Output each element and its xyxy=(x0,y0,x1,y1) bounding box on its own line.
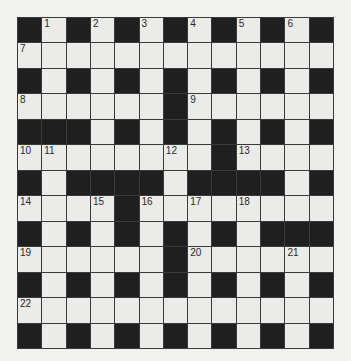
answer-cell[interactable] xyxy=(212,247,235,271)
answer-cell[interactable] xyxy=(115,247,138,271)
answer-cell[interactable] xyxy=(140,324,163,348)
answer-cell[interactable] xyxy=(164,196,187,220)
answer-cell[interactable]: 12 xyxy=(164,145,187,169)
answer-cell[interactable]: 20 xyxy=(188,247,211,271)
answer-cell[interactable] xyxy=(310,43,333,67)
answer-cell[interactable]: 3 xyxy=(140,18,163,42)
answer-cell[interactable] xyxy=(285,324,308,348)
answer-cell[interactable] xyxy=(67,145,90,169)
answer-cell[interactable] xyxy=(285,120,308,144)
answer-cell[interactable] xyxy=(140,69,163,93)
answer-cell[interactable]: 11 xyxy=(42,145,65,169)
answer-cell[interactable]: 4 xyxy=(188,18,211,42)
answer-cell[interactable] xyxy=(140,273,163,297)
answer-cell[interactable] xyxy=(237,298,260,322)
answer-cell[interactable] xyxy=(237,120,260,144)
answer-cell[interactable] xyxy=(237,247,260,271)
answer-cell[interactable]: 14 xyxy=(18,196,41,220)
answer-cell[interactable] xyxy=(164,43,187,67)
answer-cell[interactable] xyxy=(42,196,65,220)
answer-cell[interactable]: 16 xyxy=(140,196,163,220)
answer-cell[interactable] xyxy=(42,298,65,322)
answer-cell[interactable] xyxy=(212,94,235,118)
answer-cell[interactable] xyxy=(91,43,114,67)
answer-cell[interactable] xyxy=(261,298,284,322)
answer-cell[interactable] xyxy=(261,145,284,169)
answer-cell[interactable] xyxy=(310,298,333,322)
answer-cell[interactable] xyxy=(188,222,211,246)
answer-cell[interactable]: 15 xyxy=(91,196,114,220)
answer-cell[interactable] xyxy=(42,69,65,93)
answer-cell[interactable] xyxy=(212,196,235,220)
answer-cell[interactable] xyxy=(285,171,308,195)
answer-cell[interactable] xyxy=(42,171,65,195)
answer-cell[interactable] xyxy=(188,43,211,67)
answer-cell[interactable] xyxy=(67,43,90,67)
answer-cell[interactable]: 7 xyxy=(18,43,41,67)
answer-cell[interactable] xyxy=(285,43,308,67)
answer-cell[interactable] xyxy=(67,94,90,118)
answer-cell[interactable] xyxy=(42,43,65,67)
answer-cell[interactable] xyxy=(67,247,90,271)
answer-cell[interactable] xyxy=(91,324,114,348)
answer-cell[interactable] xyxy=(140,145,163,169)
answer-cell[interactable] xyxy=(115,94,138,118)
answer-cell[interactable] xyxy=(91,94,114,118)
answer-cell[interactable] xyxy=(237,69,260,93)
answer-cell[interactable]: 19 xyxy=(18,247,41,271)
answer-cell[interactable] xyxy=(67,298,90,322)
answer-cell[interactable] xyxy=(310,196,333,220)
answer-cell[interactable] xyxy=(237,324,260,348)
answer-cell[interactable] xyxy=(42,247,65,271)
answer-cell[interactable] xyxy=(237,94,260,118)
answer-cell[interactable] xyxy=(140,94,163,118)
answer-cell[interactable] xyxy=(310,94,333,118)
answer-cell[interactable]: 8 xyxy=(18,94,41,118)
answer-cell[interactable] xyxy=(188,298,211,322)
answer-cell[interactable] xyxy=(285,145,308,169)
answer-cell[interactable] xyxy=(42,273,65,297)
answer-cell[interactable] xyxy=(42,324,65,348)
answer-cell[interactable] xyxy=(91,69,114,93)
answer-cell[interactable] xyxy=(188,145,211,169)
answer-cell[interactable] xyxy=(285,94,308,118)
answer-cell[interactable]: 21 xyxy=(285,247,308,271)
answer-cell[interactable]: 5 xyxy=(237,18,260,42)
answer-cell[interactable] xyxy=(261,247,284,271)
answer-cell[interactable] xyxy=(140,298,163,322)
answer-cell[interactable] xyxy=(115,43,138,67)
answer-cell[interactable] xyxy=(310,247,333,271)
answer-cell[interactable] xyxy=(91,247,114,271)
answer-cell[interactable] xyxy=(115,145,138,169)
answer-cell[interactable] xyxy=(67,196,90,220)
answer-cell[interactable] xyxy=(140,43,163,67)
answer-cell[interactable] xyxy=(140,247,163,271)
answer-cell[interactable]: 6 xyxy=(285,18,308,42)
answer-cell[interactable] xyxy=(188,69,211,93)
answer-cell[interactable] xyxy=(91,145,114,169)
answer-cell[interactable] xyxy=(188,324,211,348)
answer-cell[interactable]: 2 xyxy=(91,18,114,42)
answer-cell[interactable]: 1 xyxy=(42,18,65,42)
answer-cell[interactable] xyxy=(140,222,163,246)
answer-cell[interactable] xyxy=(261,94,284,118)
answer-cell[interactable] xyxy=(212,43,235,67)
answer-cell[interactable] xyxy=(285,273,308,297)
answer-cell[interactable] xyxy=(140,120,163,144)
answer-cell[interactable] xyxy=(237,222,260,246)
answer-cell[interactable] xyxy=(237,43,260,67)
answer-cell[interactable] xyxy=(42,94,65,118)
answer-cell[interactable]: 18 xyxy=(237,196,260,220)
answer-cell[interactable] xyxy=(91,273,114,297)
answer-cell[interactable] xyxy=(91,298,114,322)
answer-cell[interactable] xyxy=(261,196,284,220)
answer-cell[interactable]: 9 xyxy=(188,94,211,118)
answer-cell[interactable] xyxy=(91,222,114,246)
answer-cell[interactable] xyxy=(42,222,65,246)
answer-cell[interactable] xyxy=(91,120,114,144)
answer-cell[interactable] xyxy=(285,298,308,322)
answer-cell[interactable] xyxy=(164,298,187,322)
answer-cell[interactable] xyxy=(285,196,308,220)
answer-cell[interactable]: 22 xyxy=(18,298,41,322)
answer-cell[interactable] xyxy=(237,273,260,297)
